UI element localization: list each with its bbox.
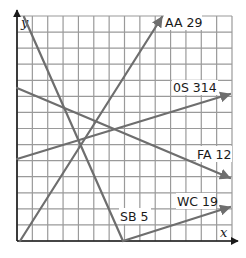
line-fa-12: [17, 88, 230, 178]
label-os-314: 0S 314: [173, 80, 217, 95]
label-aa-29: AA 29: [165, 15, 202, 30]
label-fa-12: FA 12: [197, 147, 231, 162]
line-diagram: y x AA 29 0S 314 FA 12 WC 19 SB 5: [0, 0, 246, 258]
label-sb-5: SB 5: [120, 209, 148, 224]
x-axis-label: x: [220, 225, 228, 240]
label-wc-19: WC 19: [177, 194, 218, 209]
